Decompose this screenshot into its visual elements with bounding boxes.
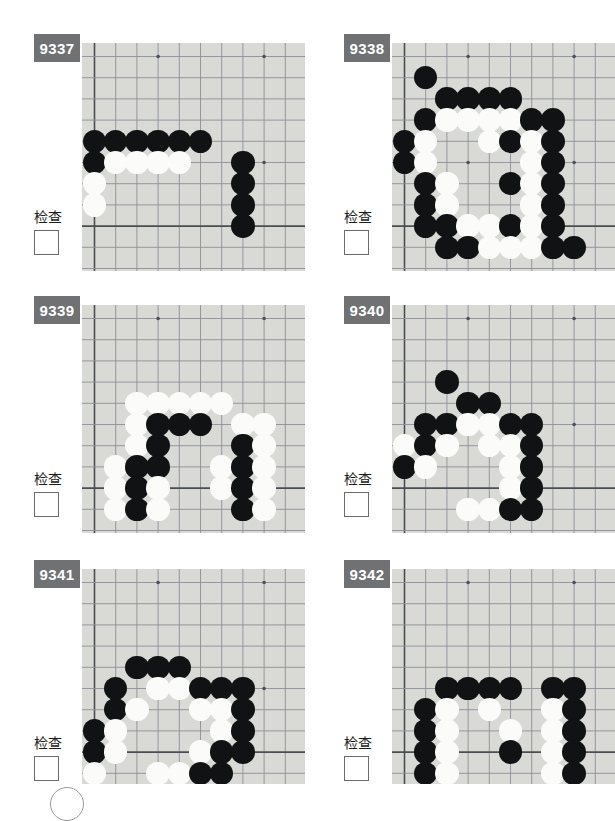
black-stone[interactable]: [562, 698, 586, 722]
white-stone[interactable]: [231, 413, 255, 437]
black-stone[interactable]: [414, 214, 438, 238]
black-stone[interactable]: [541, 677, 565, 701]
black-stone[interactable]: [435, 413, 459, 437]
black-stone[interactable]: [210, 740, 234, 764]
black-stone[interactable]: [414, 193, 438, 217]
white-stone[interactable]: [499, 108, 523, 132]
white-stone[interactable]: [435, 762, 459, 784]
black-stone[interactable]: [456, 392, 480, 416]
white-stone[interactable]: [456, 413, 480, 437]
go-board[interactable]: [392, 305, 615, 533]
white-stone[interactable]: [541, 762, 565, 784]
white-stone[interactable]: [435, 108, 459, 132]
white-stone[interactable]: [146, 392, 170, 416]
black-stone[interactable]: [541, 193, 565, 217]
black-stone[interactable]: [435, 214, 459, 238]
white-stone[interactable]: [435, 719, 459, 743]
black-stone[interactable]: [562, 236, 586, 260]
white-stone[interactable]: [541, 698, 565, 722]
black-stone[interactable]: [393, 130, 417, 154]
white-stone[interactable]: [125, 698, 149, 722]
white-stone[interactable]: [125, 434, 149, 458]
black-stone[interactable]: [562, 719, 586, 743]
white-stone[interactable]: [210, 719, 234, 743]
black-stone[interactable]: [83, 719, 107, 743]
white-stone[interactable]: [83, 193, 107, 217]
black-stone[interactable]: [478, 392, 502, 416]
white-stone[interactable]: [499, 476, 523, 500]
white-stone[interactable]: [456, 498, 480, 522]
white-stone[interactable]: [478, 108, 502, 132]
black-stone[interactable]: [499, 498, 523, 522]
white-stone[interactable]: [541, 740, 565, 764]
white-stone[interactable]: [520, 214, 544, 238]
white-stone[interactable]: [435, 698, 459, 722]
black-stone[interactable]: [231, 151, 255, 175]
white-stone[interactable]: [125, 392, 149, 416]
black-stone[interactable]: [231, 476, 255, 500]
white-stone[interactable]: [252, 413, 276, 437]
white-stone[interactable]: [435, 193, 459, 217]
black-stone[interactable]: [456, 87, 480, 111]
black-stone[interactable]: [414, 740, 438, 764]
black-stone[interactable]: [125, 130, 149, 154]
check-checkbox[interactable]: [34, 230, 59, 255]
black-stone[interactable]: [231, 740, 255, 764]
white-stone[interactable]: [435, 740, 459, 764]
white-stone[interactable]: [104, 476, 128, 500]
white-stone[interactable]: [499, 719, 523, 743]
white-stone[interactable]: [210, 476, 234, 500]
black-stone[interactable]: [393, 455, 417, 479]
black-stone[interactable]: [125, 476, 149, 500]
white-stone[interactable]: [499, 455, 523, 479]
white-stone[interactable]: [168, 677, 192, 701]
white-stone[interactable]: [456, 214, 480, 238]
black-stone[interactable]: [541, 108, 565, 132]
black-stone[interactable]: [83, 130, 107, 154]
go-board[interactable]: [392, 569, 615, 784]
black-stone[interactable]: [146, 130, 170, 154]
black-stone[interactable]: [125, 455, 149, 479]
white-stone[interactable]: [146, 151, 170, 175]
black-stone[interactable]: [520, 108, 544, 132]
black-stone[interactable]: [146, 656, 170, 680]
white-stone[interactable]: [125, 413, 149, 437]
black-stone[interactable]: [231, 455, 255, 479]
white-stone[interactable]: [189, 740, 213, 764]
go-board[interactable]: [82, 305, 305, 533]
black-stone[interactable]: [541, 236, 565, 260]
check-checkbox[interactable]: [344, 492, 369, 517]
black-stone[interactable]: [435, 87, 459, 111]
black-stone[interactable]: [189, 762, 213, 784]
white-stone[interactable]: [252, 455, 276, 479]
black-stone[interactable]: [456, 236, 480, 260]
black-stone[interactable]: [562, 677, 586, 701]
white-stone[interactable]: [104, 719, 128, 743]
white-stone[interactable]: [456, 108, 480, 132]
white-stone[interactable]: [146, 498, 170, 522]
black-stone[interactable]: [478, 677, 502, 701]
black-stone[interactable]: [146, 455, 170, 479]
white-stone[interactable]: [168, 151, 192, 175]
white-stone[interactable]: [478, 236, 502, 260]
black-stone[interactable]: [435, 677, 459, 701]
black-stone[interactable]: [83, 740, 107, 764]
black-stone[interactable]: [478, 87, 502, 111]
black-stone[interactable]: [168, 656, 192, 680]
black-stone[interactable]: [499, 130, 523, 154]
white-stone[interactable]: [414, 455, 438, 479]
black-stone[interactable]: [231, 214, 255, 238]
white-stone[interactable]: [146, 677, 170, 701]
white-stone[interactable]: [478, 130, 502, 154]
black-stone[interactable]: [414, 762, 438, 784]
white-stone[interactable]: [104, 740, 128, 764]
black-stone[interactable]: [435, 370, 459, 394]
white-stone[interactable]: [146, 762, 170, 784]
black-stone[interactable]: [541, 214, 565, 238]
black-stone[interactable]: [541, 130, 565, 154]
black-stone[interactable]: [499, 214, 523, 238]
black-stone[interactable]: [231, 172, 255, 196]
black-stone[interactable]: [168, 130, 192, 154]
go-board[interactable]: [82, 569, 305, 784]
white-stone[interactable]: [104, 455, 128, 479]
